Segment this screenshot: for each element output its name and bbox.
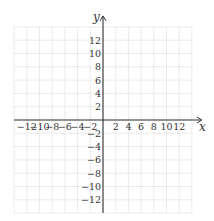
y-tick-label: 12 <box>89 35 101 46</box>
x-tick-label: 10 <box>160 121 172 132</box>
x-tick-label: 4 <box>125 121 131 132</box>
y-tick-label: −12 <box>81 194 101 205</box>
y-tick-label: 8 <box>95 61 101 72</box>
y-tick-label: 10 <box>89 48 101 59</box>
coordinate-plane: −12−10−8−6−4−224681012 12108642−2−4−6−8−… <box>0 0 214 221</box>
y-tick-label: −6 <box>87 154 101 165</box>
y-axis-label: y <box>92 10 100 24</box>
x-tick-label: 6 <box>138 121 144 132</box>
y-tick-label: −10 <box>81 181 101 192</box>
x-tick-label: 2 <box>113 121 119 132</box>
axes <box>14 16 202 213</box>
y-tick-label: 4 <box>95 88 101 99</box>
y-tick-label: 2 <box>95 101 101 112</box>
x-tick-label: 8 <box>151 121 157 132</box>
y-tick-label: −4 <box>87 141 101 152</box>
x-tick-labels: −12−10−8−6−4−224681012 <box>17 121 185 132</box>
x-tick-label: 12 <box>173 121 185 132</box>
y-tick-label: 6 <box>95 75 101 86</box>
y-tick-label: −2 <box>87 128 101 139</box>
x-axis-label: x <box>199 120 206 134</box>
y-tick-label: −8 <box>87 168 101 179</box>
